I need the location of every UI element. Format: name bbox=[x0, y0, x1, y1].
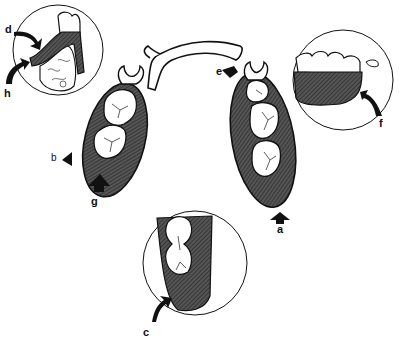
major-connector bbox=[144, 42, 242, 90]
label-c: c bbox=[143, 327, 149, 338]
label-f: f bbox=[379, 118, 383, 129]
label-e: e bbox=[216, 66, 222, 77]
label-a: a bbox=[277, 224, 283, 235]
inset-ridge-cross-section bbox=[13, 5, 103, 95]
arrow-e-icon bbox=[222, 66, 238, 78]
label-b: b bbox=[51, 153, 57, 163]
dental-diagram bbox=[0, 0, 399, 345]
label-g: g bbox=[91, 196, 98, 207]
label-d: d bbox=[5, 24, 12, 35]
inset-distal-extension bbox=[143, 211, 247, 315]
label-h: h bbox=[4, 88, 11, 99]
arrow-b-icon bbox=[62, 152, 72, 166]
right-saddle bbox=[221, 62, 306, 212]
